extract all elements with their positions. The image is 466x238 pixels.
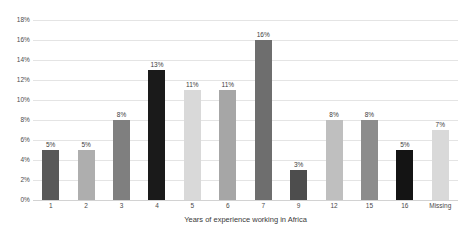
bar-group[interactable]: 11% [184, 20, 201, 200]
bar[interactable] [113, 120, 130, 200]
x-axis-tick-label: Missing [423, 203, 458, 210]
y-axis-tick-label: 8% [0, 117, 30, 124]
x-axis-tick-label: 5 [175, 203, 210, 210]
bar-group[interactable]: 13% [148, 20, 165, 200]
plot-area: 5%5%8%13%11%11%16%3%8%8%5%7% [33, 20, 458, 200]
y-axis-tick-label: 18% [0, 17, 30, 24]
x-axis-title: Years of experience working in Africa [33, 216, 458, 224]
x-axis-tick-label: 12 [316, 203, 351, 210]
y-axis-tick-label: 0% [0, 197, 30, 204]
x-axis-tick-label: 2 [68, 203, 103, 210]
bar[interactable] [432, 130, 449, 200]
bar-value-label: 8% [105, 112, 138, 119]
bar-group[interactable]: 5% [78, 20, 95, 200]
bar[interactable] [42, 150, 59, 200]
bar-group[interactable]: 7% [432, 20, 449, 200]
bar-series: 5%5%8%13%11%11%16%3%8%8%5%7% [33, 20, 458, 200]
y-axis-tick-label: 4% [0, 157, 30, 164]
bar[interactable] [326, 120, 343, 200]
bar-value-label: 3% [282, 162, 315, 169]
bar[interactable] [361, 120, 378, 200]
y-axis-tick-label: 2% [0, 177, 30, 184]
bar[interactable] [255, 40, 272, 200]
bar-group[interactable]: 3% [290, 20, 307, 200]
bar-group[interactable]: 11% [219, 20, 236, 200]
bar-value-label: 16% [247, 32, 280, 39]
bar-chart: 0%2%4%6%8%10%12%14%16%18% 5%5%8%13%11%11… [0, 0, 466, 238]
y-axis-tick-label: 12% [0, 77, 30, 84]
bar-value-label: 5% [388, 142, 421, 149]
x-axis-tick-label: 9 [281, 203, 316, 210]
bar-group[interactable]: 5% [42, 20, 59, 200]
bar-group[interactable]: 8% [361, 20, 378, 200]
x-axis-tick-label: 4 [139, 203, 174, 210]
x-axis-tick-label: 3 [104, 203, 139, 210]
y-axis-tick-label: 10% [0, 97, 30, 104]
y-axis: 0%2%4%6%8%10%12%14%16%18% [0, 20, 30, 200]
x-axis-tick-label: 16 [387, 203, 422, 210]
bar-group[interactable]: 16% [255, 20, 272, 200]
bar[interactable] [148, 70, 165, 200]
bar-value-label: 5% [34, 142, 67, 149]
x-axis-tick-label: 15 [352, 203, 387, 210]
bar[interactable] [290, 170, 307, 200]
bar-value-label: 5% [70, 142, 103, 149]
x-axis-tick-label: 6 [210, 203, 245, 210]
axis-baseline [33, 200, 458, 201]
x-axis-tick-label: 1 [33, 203, 68, 210]
bar-group[interactable]: 8% [113, 20, 130, 200]
bar-group[interactable]: 5% [396, 20, 413, 200]
y-axis-tick-label: 14% [0, 57, 30, 64]
bar-value-label: 13% [140, 62, 173, 69]
bar-value-label: 11% [176, 82, 209, 89]
bar-value-label: 7% [424, 122, 457, 129]
bar[interactable] [219, 90, 236, 200]
bar-value-label: 8% [318, 112, 351, 119]
bar-group[interactable]: 8% [326, 20, 343, 200]
x-axis: 12345679121516Missing [33, 203, 458, 215]
bar[interactable] [184, 90, 201, 200]
bar[interactable] [396, 150, 413, 200]
y-axis-tick-label: 16% [0, 37, 30, 44]
bar-value-label: 8% [353, 112, 386, 119]
bar-value-label: 11% [211, 82, 244, 89]
x-axis-tick-label: 7 [246, 203, 281, 210]
y-axis-tick-label: 6% [0, 137, 30, 144]
bar[interactable] [78, 150, 95, 200]
